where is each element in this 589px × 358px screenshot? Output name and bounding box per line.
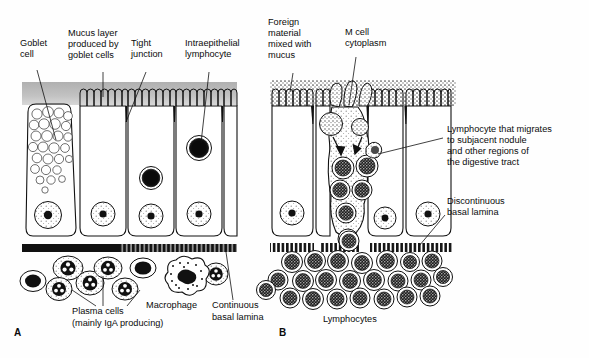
label-lymphocytes: Lymphocytes xyxy=(323,314,377,324)
label-macrophage: Macrophage xyxy=(146,300,197,310)
macrophage xyxy=(165,256,209,295)
endocytosed-particle-small xyxy=(352,119,369,136)
plasma-cell xyxy=(46,278,72,301)
histology-diagram: Goblet cell Mucus layer produced by gobl… xyxy=(0,0,589,358)
plasma-cell xyxy=(130,258,156,278)
intraepithelial-lymphocyte-2 xyxy=(187,136,212,161)
intraepithelial-lymphocyte-1 xyxy=(140,167,163,190)
mucus-layer-band-a xyxy=(22,82,237,105)
plasma-cell xyxy=(20,271,46,292)
migrating-lymphocyte-bud xyxy=(366,142,382,158)
label-mucus-layer: Mucus layer produced by goblet cells xyxy=(68,28,121,60)
plasma-cell xyxy=(94,257,122,279)
panel-letter-b: B xyxy=(279,327,286,338)
panel-b xyxy=(257,80,457,310)
panel-letter-a: A xyxy=(14,327,21,338)
continuous-basal-lamina xyxy=(22,244,237,252)
label-discontinuous-basal-lamina: Discontinuous basal lamina xyxy=(447,196,507,217)
figure-canvas: Goblet cell Mucus layer produced by gobl… xyxy=(0,0,589,358)
goblet-cell-nucleus xyxy=(35,202,62,229)
enterocyte-nuclei-a xyxy=(91,202,211,228)
endocytosed-particle-large xyxy=(320,113,343,136)
